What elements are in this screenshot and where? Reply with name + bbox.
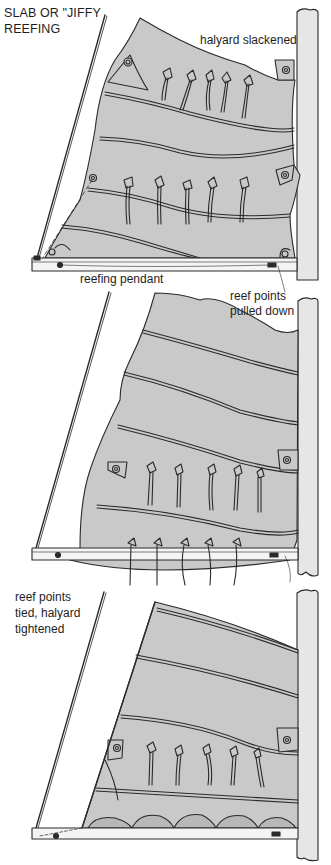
diagram-title-line-2: REEFING <box>4 22 60 37</box>
panel-2-reef-points-pulled-down <box>32 292 318 585</box>
mast-icon <box>298 298 318 576</box>
label-reef-points-pulled-1: reef points <box>230 289 286 304</box>
sail-icon <box>67 293 298 570</box>
mast-icon <box>297 590 318 861</box>
label-reef-points-pulled-2: pulled down <box>230 304 294 319</box>
panel-1-halyard-slackened <box>32 9 318 292</box>
boom-icon <box>32 548 298 560</box>
label-reef-points-tied-2: tied, halyard <box>15 606 80 621</box>
reefing-diagram <box>0 0 331 865</box>
label-reef-points-tied-1: reef points <box>15 590 71 605</box>
label-reefing-pendant: reefing pendant <box>80 272 163 287</box>
sail-icon <box>45 18 300 258</box>
panel-3-reef-points-tied <box>32 590 318 861</box>
label-halyard-slackened: halyard slackened <box>200 33 297 48</box>
diagram-title-line-1: SLAB OR "JIFFY <box>4 6 101 21</box>
label-reef-points-tied-3: tightened <box>15 622 64 637</box>
mast-icon <box>297 9 318 280</box>
boom-icon <box>32 258 297 271</box>
